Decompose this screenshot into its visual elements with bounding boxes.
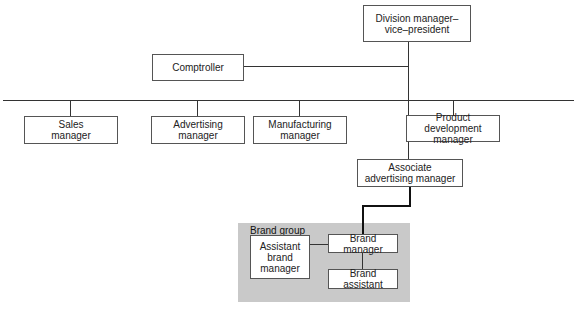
node-product-development-manager: Product development manager <box>406 115 500 142</box>
node-advertising-manager: Advertising manager <box>151 116 245 144</box>
connector-advertising <box>197 100 198 116</box>
node-sales-manager: Sales manager <box>24 116 118 144</box>
node-associate-advertising-manager: Associate advertising manager <box>357 159 463 187</box>
connector-brand-manager-up <box>362 205 364 234</box>
node-assistant-brand-manager: Assistant brand manager <box>250 235 310 279</box>
connector-sales <box>70 100 71 116</box>
node-brand-manager: Brand manager <box>328 234 398 253</box>
node-manufacturing-manager: Manufacturing manager <box>253 116 347 144</box>
connector-associate-down <box>409 186 411 206</box>
connector-associate-horizontal <box>362 205 411 207</box>
node-comptroller: Comptroller <box>152 54 244 81</box>
connector-comptroller <box>244 66 408 67</box>
node-division-manager: Division manager– vice–president <box>363 5 471 42</box>
node-brand-assistant: Brand assistant <box>328 269 398 289</box>
connector-assistant-brand <box>310 244 328 245</box>
connector-brand-assistant <box>362 253 363 269</box>
connector-manufacturing <box>299 100 300 116</box>
connector-managers-bar <box>3 100 574 101</box>
